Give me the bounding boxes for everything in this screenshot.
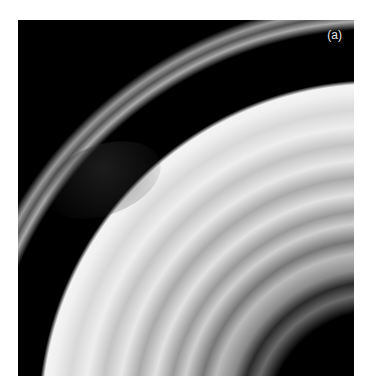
saturn-rings-photo: (a) [18, 20, 354, 376]
panel-label: (a) [327, 28, 342, 42]
rings-image [18, 20, 354, 376]
